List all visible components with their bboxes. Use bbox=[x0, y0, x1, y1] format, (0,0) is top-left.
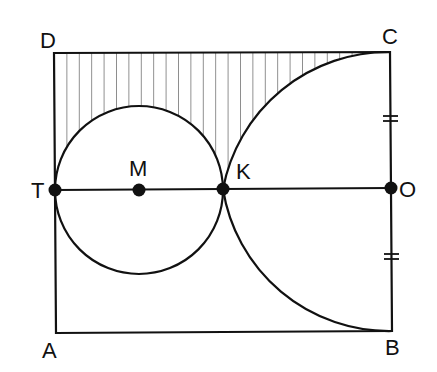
diagram-canvas: D C T M K O A B bbox=[0, 0, 437, 372]
label-a: A bbox=[42, 338, 57, 363]
label-t: T bbox=[31, 178, 44, 203]
label-k: K bbox=[236, 159, 251, 184]
label-m: M bbox=[129, 156, 147, 181]
point-o bbox=[385, 182, 398, 195]
label-o: O bbox=[399, 177, 416, 202]
label-c: C bbox=[382, 24, 398, 49]
label-d: D bbox=[40, 28, 56, 53]
shaded-region bbox=[54, 53, 391, 193]
point-k bbox=[217, 183, 230, 196]
label-b: B bbox=[385, 335, 400, 360]
geometry-diagram: D C T M K O A B bbox=[0, 0, 437, 372]
point-t bbox=[49, 184, 62, 197]
point-m bbox=[133, 184, 146, 197]
